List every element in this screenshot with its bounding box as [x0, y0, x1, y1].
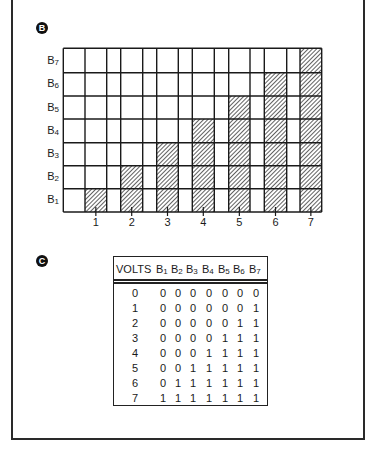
x-label: 1 — [89, 216, 103, 228]
bit-cell: 0 — [172, 347, 184, 359]
bit-cell: 1 — [234, 377, 246, 389]
x-label: 6 — [269, 216, 283, 228]
bit-cell: 1 — [250, 347, 262, 359]
bit-cell: 1 — [250, 302, 262, 314]
shaded-cell — [264, 166, 286, 189]
x-label: 2 — [125, 216, 139, 228]
bit-cell: 1 — [219, 377, 231, 389]
y-label: B1 — [37, 193, 59, 206]
bit-cell: 0 — [219, 302, 231, 314]
bit-cell: 0 — [157, 347, 169, 359]
shaded-cell — [229, 166, 250, 189]
bit-cell: 1 — [219, 332, 231, 344]
bit-cell: 0 — [187, 302, 199, 314]
shaded-cell — [157, 143, 179, 166]
bit-cell: 0 — [157, 377, 169, 389]
bit-cell: 1 — [187, 362, 199, 374]
bit-cell: 1 — [172, 392, 184, 404]
shaded-cell — [264, 96, 286, 119]
bit-cell: 1 — [250, 332, 262, 344]
y-label: B4 — [37, 124, 59, 137]
shaded-cell — [229, 143, 250, 166]
x-label: 4 — [196, 216, 210, 228]
bit-cell: 0 — [157, 317, 169, 329]
header-bit: B6 — [233, 263, 245, 276]
bit-cell: 0 — [187, 317, 199, 329]
bit-cell: 1 — [219, 392, 231, 404]
volts-cell: 6 — [129, 377, 141, 389]
bit-cell: 1 — [187, 377, 199, 389]
x-label: 3 — [161, 216, 175, 228]
bit-cell: 0 — [203, 332, 215, 344]
shaded-cell — [264, 73, 286, 96]
shaded-cell — [300, 166, 322, 189]
shaded-cell — [264, 119, 286, 143]
shaded-cell — [300, 48, 322, 72]
bit-cell: 1 — [203, 362, 215, 374]
header-bit: B1 — [156, 263, 168, 276]
bit-cell: 0 — [157, 332, 169, 344]
bit-cell: 0 — [157, 287, 169, 299]
shaded-cell — [300, 96, 322, 119]
header-rule-bottom — [113, 282, 268, 284]
volts-cell: 5 — [129, 362, 141, 374]
bit-cell: 1 — [234, 317, 246, 329]
shaded-cell — [192, 166, 214, 189]
bit-cell: 0 — [172, 332, 184, 344]
bit-cell: 1 — [203, 377, 215, 389]
shaded-cell — [300, 143, 322, 166]
x-label: 7 — [304, 216, 318, 228]
volts-cell: 1 — [129, 302, 141, 314]
y-label: B3 — [37, 147, 59, 160]
bit-cell: 1 — [250, 377, 262, 389]
bit-cell: 1 — [234, 332, 246, 344]
bit-cell: 0 — [203, 317, 215, 329]
bit-cell: 0 — [172, 302, 184, 314]
bit-cell: 0 — [203, 287, 215, 299]
x-label: 5 — [232, 216, 246, 228]
header-bit: B2 — [171, 263, 183, 276]
bit-cell: 0 — [172, 287, 184, 299]
header-bit: B5 — [218, 263, 230, 276]
shaded-cell — [264, 143, 286, 166]
bit-cell: 0 — [203, 302, 215, 314]
volts-cell: 4 — [129, 347, 141, 359]
bit-cell: 0 — [187, 287, 199, 299]
y-label: B6 — [37, 77, 59, 90]
header-bit: B3 — [186, 263, 198, 276]
header-volts: VOLTS — [116, 263, 151, 275]
panel-c-badge: C — [36, 255, 48, 267]
bit-cell: 1 — [250, 317, 262, 329]
bit-cell: 0 — [219, 317, 231, 329]
y-label: B5 — [37, 101, 59, 114]
volts-cell: 7 — [129, 392, 141, 404]
shaded-cell — [300, 73, 322, 96]
header-bit: B4 — [202, 263, 214, 276]
bit-cell: 1 — [157, 392, 169, 404]
bit-cell: 1 — [219, 347, 231, 359]
shaded-cell — [192, 143, 214, 166]
header-rule-top — [113, 279, 268, 281]
shaded-cell — [229, 119, 250, 143]
header-bit: B7 — [249, 263, 261, 276]
bit-cell: 0 — [157, 362, 169, 374]
shaded-cell — [300, 119, 322, 143]
bit-cell: 1 — [172, 377, 184, 389]
bit-cell: 0 — [172, 317, 184, 329]
bit-cell: 1 — [250, 362, 262, 374]
bit-cell: 0 — [250, 287, 262, 299]
bit-cell: 1 — [250, 392, 262, 404]
bit-cell: 1 — [219, 362, 231, 374]
bit-cell: 1 — [203, 392, 215, 404]
y-label: B7 — [37, 54, 59, 67]
bit-cell: 1 — [187, 392, 199, 404]
bit-cell: 0 — [234, 287, 246, 299]
bit-cell: 1 — [234, 362, 246, 374]
bit-cell: 1 — [203, 347, 215, 359]
volts-cell: 2 — [129, 317, 141, 329]
shaded-cell — [121, 166, 143, 189]
bit-cell: 0 — [187, 332, 199, 344]
volts-cell: 0 — [129, 287, 141, 299]
shaded-cell — [192, 119, 214, 143]
bit-cell: 0 — [219, 287, 231, 299]
